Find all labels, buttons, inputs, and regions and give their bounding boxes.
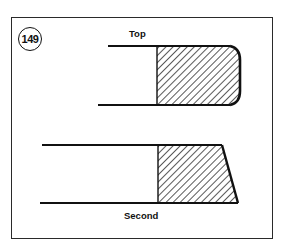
- top-ring-hatched-section: [157, 46, 241, 105]
- ring-diagrams: [0, 0, 289, 251]
- second-ring-diagram: [40, 145, 240, 203]
- second-ring-hatched-section: [158, 145, 240, 203]
- top-ring-diagram: [98, 46, 241, 105]
